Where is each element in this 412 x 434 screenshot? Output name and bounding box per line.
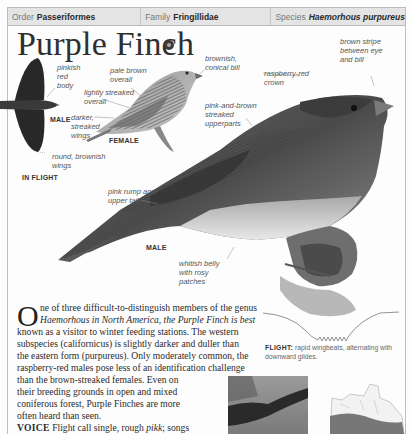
description-line-8: their breeding grounds in open and mixed	[17, 386, 177, 398]
label-upperparts: pink-and-brownstreakedupperparts	[205, 101, 257, 128]
label-raspberry-red-crown: raspberry-redcrown	[264, 69, 309, 87]
description-line-7: than the brown-streaked females. Even on	[17, 374, 178, 386]
description-line-10: often heard than seen.	[17, 410, 101, 422]
field-guide-page: Order Passeriformes Family Fringillidae …	[0, 0, 412, 434]
range-map	[330, 380, 405, 434]
description-line-4: subspecies (californicus) is slightly da…	[17, 338, 239, 350]
caption-in-flight: IN FLIGHT	[22, 174, 58, 181]
caption-in-flight-male: MALE	[50, 116, 71, 123]
in-flight-male-illustration	[0, 58, 60, 152]
description-line-2: Haemorhous in North America, the Purple …	[40, 314, 255, 326]
caption-male: MALE	[146, 244, 167, 251]
flight-caption: FLIGHT: rapid wingbeats, alternating wit…	[265, 343, 400, 361]
description-line-9: coniferous forest, Purple Finches are mo…	[17, 398, 180, 410]
label-whitish-belly: whitish bellywith rosypatches	[179, 259, 219, 286]
description-line-3: known as a visitor to winter feeding sta…	[17, 326, 239, 338]
description-line-5: the eastern form (purpureus). Only moder…	[17, 350, 249, 362]
label-darker-streaked-wings: darker,streakedwings	[71, 113, 100, 140]
voice-label: VOICE	[17, 422, 50, 433]
label-round-brownish-wings: round, brownishwings	[52, 152, 105, 170]
label-pink-rump: pink rump andupper tail	[108, 187, 156, 205]
habitat-photo	[228, 376, 308, 434]
label-brown-stripe: brown stripebetween eyeand bill	[340, 37, 383, 64]
label-conical-bill: brownish,conical bill	[205, 54, 240, 72]
label-pale-brown-overall: pale brownoverall	[110, 66, 147, 84]
flight-pattern-diagram	[263, 312, 399, 341]
description-line-1: ne of three difficult-to-distinguish mem…	[40, 302, 257, 314]
voice-line-1: VOICE Flight call single, rough pikk; so…	[17, 422, 189, 434]
label-lightly-streaked: lightly streakedoverall	[84, 88, 134, 106]
description-line-6: raspberry-red males pose less of an iden…	[17, 362, 245, 374]
caption-female: FEMALE	[109, 137, 139, 144]
label-pinkish-red-body: pinkishredbody	[57, 63, 80, 90]
flight-label: FLIGHT:	[265, 344, 293, 351]
